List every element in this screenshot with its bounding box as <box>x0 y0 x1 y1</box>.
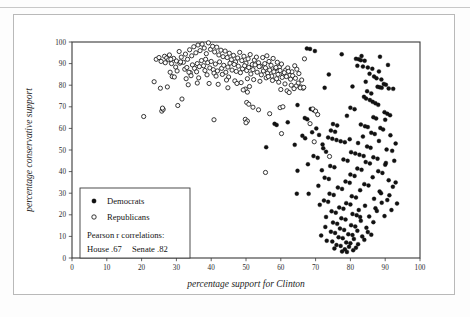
data-point-republican <box>247 65 251 69</box>
x-tick-label: 50 <box>242 264 250 272</box>
data-point-democrat <box>374 116 378 120</box>
data-point-democrat <box>385 198 389 202</box>
data-point-republican <box>178 60 182 64</box>
data-point-democrat <box>337 205 341 209</box>
data-point-democrat <box>391 87 395 91</box>
data-point-republican <box>295 67 299 71</box>
data-point-democrat <box>353 174 357 178</box>
data-point-republican <box>207 81 211 85</box>
y-tick-label: 90 <box>59 60 67 68</box>
data-point-republican <box>302 85 306 89</box>
data-point-republican <box>177 49 181 53</box>
data-point-democrat <box>293 143 297 147</box>
series-republicans <box>142 41 332 175</box>
data-point-republican <box>201 64 205 68</box>
data-point-democrat <box>364 160 368 164</box>
data-point-democrat <box>359 123 363 127</box>
data-point-republican <box>152 80 156 84</box>
data-point-democrat <box>350 194 354 198</box>
data-point-republican <box>255 70 259 74</box>
data-point-republican <box>302 57 306 61</box>
data-point-republican <box>197 65 201 69</box>
data-point-republican <box>270 78 274 82</box>
data-point-republican <box>158 86 162 90</box>
data-point-democrat <box>334 138 338 142</box>
data-point-democrat <box>348 106 352 110</box>
data-point-republican <box>261 55 265 59</box>
data-point-democrat <box>356 141 360 145</box>
data-point-democrat <box>395 202 399 206</box>
data-point-democrat <box>373 206 377 210</box>
data-point-republican <box>286 69 290 73</box>
data-point-democrat <box>332 165 336 169</box>
data-point-republican <box>236 64 240 68</box>
data-point-democrat <box>329 230 333 234</box>
y-tick-label: 100 <box>55 39 66 47</box>
data-point-democrat <box>310 130 314 134</box>
data-point-democrat <box>391 185 395 189</box>
data-point-republican <box>217 60 221 64</box>
data-point-republican <box>219 48 223 52</box>
data-point-democrat <box>348 202 352 206</box>
data-point-democrat <box>360 168 364 172</box>
data-point-republican <box>194 51 198 55</box>
x-tick-label: 60 <box>277 264 285 272</box>
data-point-republican <box>266 74 270 78</box>
legend-note-senate: Senate .82 <box>132 244 168 254</box>
data-point-democrat <box>327 72 331 76</box>
data-point-republican <box>160 106 164 110</box>
data-point-republican <box>205 73 209 77</box>
data-point-democrat <box>348 173 352 177</box>
data-point-democrat <box>335 123 339 127</box>
data-point-republican <box>283 82 287 86</box>
data-point-republican <box>231 53 235 57</box>
data-point-democrat <box>363 59 367 63</box>
data-point-democrat <box>383 214 387 218</box>
data-point-democrat <box>349 150 353 154</box>
data-point-democrat <box>368 72 372 76</box>
legend-label-republicans: Republicans <box>107 212 150 222</box>
data-point-democrat <box>364 226 368 230</box>
data-point-republican <box>185 65 189 69</box>
data-point-democrat <box>362 182 366 186</box>
data-point-republican <box>284 74 288 78</box>
data-point-democrat <box>349 223 353 227</box>
data-point-democrat <box>366 125 370 129</box>
y-tick-label: 10 <box>59 233 67 241</box>
data-point-republican <box>253 63 257 67</box>
data-point-democrat <box>353 151 357 155</box>
y-tick-label: 40 <box>59 168 67 176</box>
data-point-democrat <box>377 69 381 73</box>
y-tick-label: 70 <box>59 103 67 111</box>
data-point-democrat <box>381 127 385 131</box>
x-tick-label: 20 <box>138 264 146 272</box>
data-point-democrat <box>378 55 382 59</box>
data-point-democrat <box>366 65 370 69</box>
data-point-democrat <box>308 47 312 51</box>
data-point-democrat <box>387 178 391 182</box>
data-point-democrat <box>318 203 322 207</box>
data-point-democrat <box>370 67 374 71</box>
data-point-democrat <box>380 86 384 90</box>
data-point-republican <box>308 122 312 126</box>
data-point-republican <box>251 105 255 109</box>
legend-marker-democrats <box>92 199 96 203</box>
data-point-democrat <box>321 146 325 150</box>
y-tick-label: 0 <box>62 255 66 263</box>
data-point-republican <box>202 46 206 50</box>
data-point-democrat <box>307 192 311 196</box>
data-point-democrat <box>348 137 352 141</box>
data-point-democrat <box>341 236 345 240</box>
data-point-democrat <box>372 197 376 201</box>
data-point-republican <box>186 83 190 87</box>
data-point-republican <box>239 81 243 85</box>
data-point-democrat <box>323 225 327 229</box>
data-point-republican <box>265 54 269 58</box>
data-point-republican <box>268 68 272 72</box>
data-point-republican <box>210 44 214 48</box>
legend-note-line1: Pearson r correlations: <box>87 230 164 240</box>
data-point-republican <box>235 81 239 85</box>
data-point-democrat <box>333 130 337 134</box>
data-point-republican <box>252 77 256 81</box>
legend-note-house: House .67 <box>87 244 123 254</box>
